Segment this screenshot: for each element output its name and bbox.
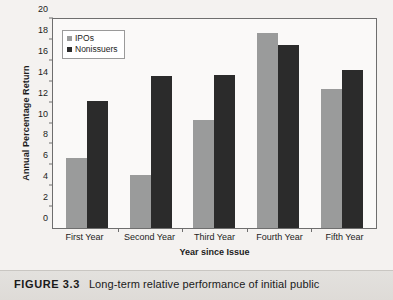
x-axis-title: Year since Issue [52,247,377,257]
y-axis-tick-label: 8 [43,129,48,139]
y-axis-title: Annual Percentage Return [21,43,31,203]
bar-ipos [257,33,278,228]
legend-item: Nonissuers [67,44,118,55]
y-axis-tick-label: 6 [43,150,48,160]
bar-group [310,19,374,228]
bar-ipos [321,89,342,229]
caption-band: FIGURE 3.3Long-term relative performance… [0,270,393,300]
bar-group [119,19,183,228]
y-axis-tick-label: 10 [38,109,48,119]
chart-legend: IPOsNonissuers [62,30,125,59]
x-axis-category-label: Fifth Year [312,232,377,242]
legend-item: IPOs [67,33,118,44]
y-axis-tick-label: 20 [38,4,48,14]
bar-ipos [130,175,151,228]
x-axis-category-label: Fourth Year [247,232,312,242]
bar-group [246,19,310,228]
bar-nonissuers [214,75,235,228]
y-axis-tick-label: 12 [38,88,48,98]
bar-nonissuers [151,76,172,228]
y-axis-tick-label: 14 [38,67,48,77]
bar-nonissuers [278,45,299,228]
x-axis-category-label: First Year [52,232,117,242]
y-axis-tick-label: 18 [38,25,48,35]
x-axis-labels: First YearSecond YearThird YearFourth Ye… [52,232,377,242]
legend-swatch-icon [67,36,72,41]
legend-swatch-icon [67,47,72,52]
legend-item-label: IPOs [75,33,94,44]
figure-caption: FIGURE 3.3Long-term relative performance… [14,278,319,290]
bar-nonissuers [342,70,363,228]
y-axis-tick-label: 16 [38,46,48,56]
y-axis-tick-label: 0 [43,213,48,223]
figure-caption-text: Long-term relative performance of initia… [89,278,319,290]
bar-group [183,19,247,228]
x-axis-category-label: Second Year [117,232,182,242]
y-axis-tick-label: 4 [43,171,48,181]
figure-number-label: FIGURE 3.3 [14,278,80,290]
chart-figure: Annual Percentage Return 024681012141618… [0,0,393,270]
bar-ipos [66,158,87,228]
bar-ipos [193,120,214,228]
y-axis-tick-label: 2 [43,192,48,202]
legend-item-label: Nonissuers [75,44,118,55]
bar-nonissuers [87,101,108,228]
x-axis-category-label: Third Year [182,232,247,242]
